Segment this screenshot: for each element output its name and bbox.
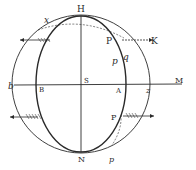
hatch-lower-right bbox=[126, 113, 138, 118]
label-left-outer: b bbox=[8, 81, 14, 91]
label-lower-point: P bbox=[111, 113, 117, 122]
label-upper-point: P bbox=[106, 36, 112, 46]
label-left-inner: B bbox=[39, 86, 44, 94]
label-right-inner: A bbox=[115, 87, 122, 95]
label-upper-arrow-target: K bbox=[151, 36, 158, 46]
label-top-left: x bbox=[44, 15, 49, 25]
label-bottom-right: p bbox=[109, 155, 114, 164]
label-right-end: M bbox=[175, 76, 183, 85]
label-right-outer: z bbox=[145, 86, 151, 95]
hatch-lower-left bbox=[26, 114, 41, 119]
horizontal-axis bbox=[14, 84, 182, 85]
label-inner-q: q bbox=[123, 52, 129, 62]
label-inner-p: p bbox=[112, 56, 118, 66]
label-top: H bbox=[77, 4, 85, 14]
label-center: S bbox=[84, 77, 89, 85]
label-bottom: N bbox=[78, 155, 85, 164]
diagram-canvas: H x P K p q b B S A z M P N p bbox=[0, 0, 196, 170]
